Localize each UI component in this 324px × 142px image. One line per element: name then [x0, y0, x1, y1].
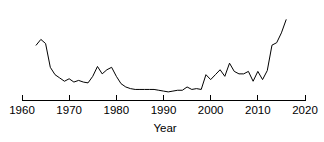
- x-axis-tick-label: 2000: [198, 104, 224, 116]
- x-axis: 1960197019801990200020102020: [9, 95, 318, 116]
- x-axis-tick-label: 1990: [151, 104, 177, 116]
- x-axis-tick-label: 1970: [56, 104, 82, 116]
- x-axis-tick-label: 1960: [9, 104, 35, 116]
- plot-area: [36, 20, 286, 92]
- x-axis-tick-label: 2010: [245, 104, 271, 116]
- x-axis-title: Year: [153, 122, 176, 134]
- x-axis-tick-label: 2020: [292, 104, 318, 116]
- data-series-line: [36, 20, 286, 92]
- line-chart: 1960197019801990200020102020 Year: [0, 0, 324, 142]
- x-axis-tick-label: 1980: [104, 104, 130, 116]
- chart-container: 1960197019801990200020102020 Year: [0, 0, 324, 142]
- x-axis-tick-labels: 1960197019801990200020102020: [9, 104, 318, 116]
- x-axis-tick-marks: [69, 95, 258, 100]
